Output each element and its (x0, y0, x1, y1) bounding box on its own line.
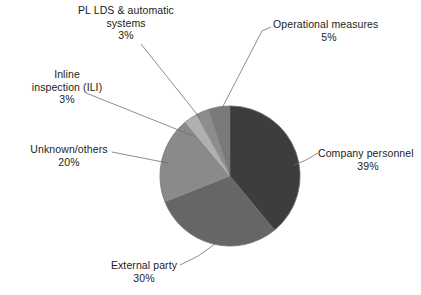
callout-operational-measures-label: Operational measures (273, 18, 413, 31)
callout-unknown-others-label: Unknown/others (14, 143, 124, 156)
callout-inline-inspection-value: 3% (8, 93, 126, 106)
callout-pl-lds-line2: systems (56, 17, 196, 30)
callout-unknown-others-value: 20% (14, 156, 124, 169)
callout-external-party-label: External party (88, 259, 200, 272)
callout-pl-lds: PL LDS & automatic systems 3% (56, 4, 196, 42)
callout-inline-inspection: Inline inspection (ILI) 3% (8, 68, 126, 106)
callout-external-party: External party 30% (88, 259, 200, 284)
pie-chart-figure: Company personnel 39%External party 30%U… (0, 0, 421, 295)
callout-operational-measures-value: 5% (273, 31, 385, 44)
callout-inline-inspection-line2: inspection (ILI) (8, 81, 126, 94)
callout-inline-inspection-line1: Inline (8, 68, 126, 81)
pie-slices-group: Company personnel 39%External party 30%U… (160, 106, 300, 246)
callout-pl-lds-line1: PL LDS & automatic (56, 4, 196, 17)
callout-unknown-others: Unknown/others 20% (14, 143, 124, 168)
leader-line-pl-lds (141, 44, 200, 118)
callout-pl-lds-value: 3% (56, 29, 196, 42)
callout-operational-measures: Operational measures 5% (273, 18, 413, 43)
callout-company-personnel-value: 39% (318, 160, 418, 173)
callout-company-personnel: Company personnel 39% (318, 147, 421, 172)
callout-external-party-value: 30% (88, 272, 200, 285)
callout-company-personnel-label: Company personnel (318, 147, 421, 160)
leader-line-operational-measures (222, 27, 271, 108)
